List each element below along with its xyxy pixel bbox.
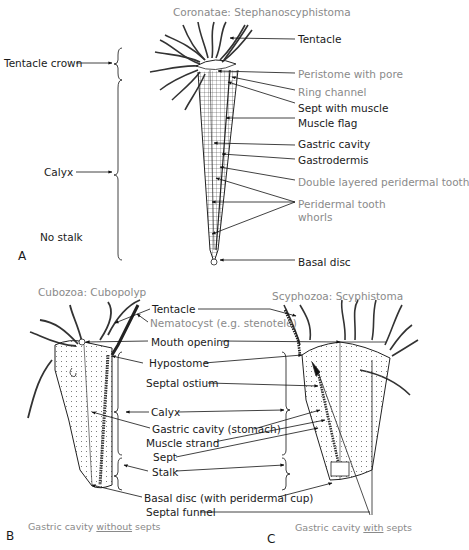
caption-c-post: septs — [383, 522, 412, 533]
label-septal-ostium: Septal ostium — [146, 377, 218, 389]
cubopolyp-drawing — [28, 300, 140, 488]
label-a-tentacle: Tentacle — [298, 33, 341, 45]
label-double-layered-peridermal-tooth: Double layered peridermal tooth — [298, 176, 469, 188]
label-muscle-strand: Muscle strand — [146, 437, 219, 449]
label-basal-disc-a: Basal disc — [298, 256, 351, 268]
label-peristome-with-pore: Peristome with pore — [298, 68, 403, 80]
panel-c-title: Scyphozoa: Scyphistoma — [272, 290, 403, 302]
caption-b-post: septs — [132, 521, 161, 532]
caption-c: Gastric cavity with septs — [295, 522, 412, 534]
caption-b: Gastric cavity without septs — [28, 521, 161, 533]
label-ring-channel: Ring channel — [298, 86, 366, 98]
label-gastric-cavity-stomach: Gastric cavity (stomach) — [152, 423, 281, 435]
label-sept-with-muscle: Sept with muscle — [298, 102, 388, 114]
panel-a-left-annotations — [76, 48, 122, 260]
panel-b-letter: B — [6, 530, 14, 542]
label-tentacle-bc: Tentacle — [152, 303, 195, 315]
panel-a-letter: A — [18, 250, 26, 262]
label-peridermal-tooth: Peridermal tooth — [298, 198, 386, 210]
caption-c-pre: Gastric cavity — [295, 522, 363, 533]
scyphistoma-drawing — [284, 300, 418, 515]
label-calyx-bc: Calyx — [151, 406, 180, 418]
label-no-stalk: No stalk — [40, 231, 83, 243]
caption-b-emphasis: without — [96, 521, 132, 532]
label-septal-funnel: Septal funnel — [146, 506, 216, 518]
panel-a-title: Coronatae: Stephanoscyphistoma — [173, 6, 351, 18]
label-sept: Sept — [153, 451, 177, 463]
label-calyx-a: Calyx — [44, 166, 73, 178]
panel-b-title: Cubozoa: Cubopolyp — [38, 286, 146, 298]
caption-b-pre: Gastric cavity — [28, 521, 96, 532]
label-muscle-flag: Muscle flag — [298, 117, 357, 129]
label-basal-disc-peridermal-cup: Basal disc (with peridermal cup) — [144, 492, 313, 504]
label-whorls: whorls — [298, 211, 332, 223]
label-tentacle-crown: Tentacle crown — [4, 57, 82, 69]
label-stalk: Stalk — [152, 466, 178, 478]
panel-c-letter: C — [267, 533, 275, 545]
label-hypostome: Hypostome — [149, 357, 209, 369]
label-gastrodermis: Gastrodermis — [298, 154, 369, 166]
caption-c-emphasis: with — [363, 522, 383, 533]
label-nematocyst: Nematocyst (e.g. stenotele) — [150, 317, 297, 329]
label-mouth-opening: Mouth opening — [151, 336, 230, 348]
label-gastric-cavity-a: Gastric cavity — [298, 138, 370, 150]
